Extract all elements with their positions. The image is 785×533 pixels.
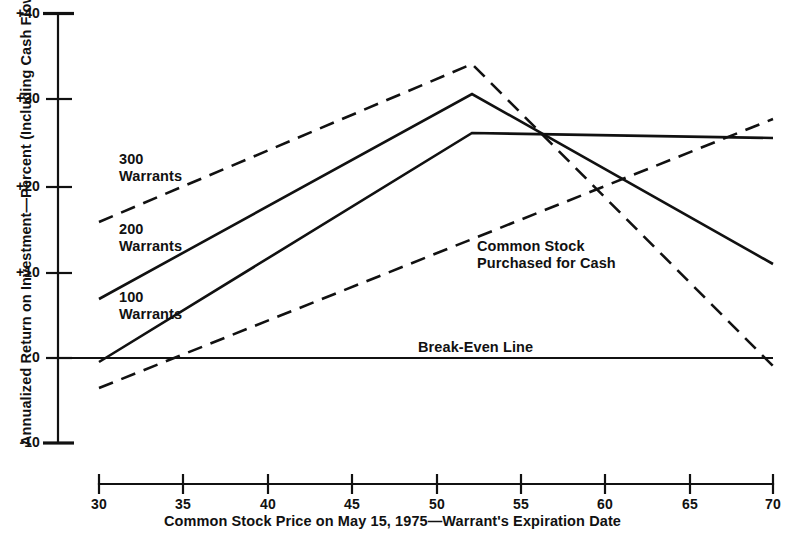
y-axis-title: Annualized Return on Investment—Percent … (18, 0, 35, 446)
y-axis (43, 13, 74, 443)
series-300-warrants (99, 64, 773, 366)
x-tick-label-50: 50 (417, 496, 457, 513)
x-tick-label-35: 35 (163, 496, 203, 513)
series-label-100-warrants: 100 Warrants (119, 289, 182, 323)
x-tick-label-55: 55 (501, 496, 541, 513)
annotation-break-even-line: Break-Even Line (418, 339, 533, 356)
series-100-warrants (99, 133, 773, 362)
series-label-300-warrants: 300 Warrants (119, 151, 182, 185)
x-tick-label-70: 70 (753, 496, 785, 513)
annotation-common-stock-purchased-for-cash: Common Stock Purchased for Cash (477, 238, 616, 272)
x-axis (99, 474, 773, 494)
series-label-200-warrants: 200 Warrants (119, 221, 182, 255)
chart-canvas (0, 0, 785, 533)
x-tick-label-60: 60 (585, 496, 625, 513)
x-tick-label-40: 40 (248, 496, 288, 513)
chart-figure: +40 +30 +20 +10 0 -10 30 35 40 45 50 55 … (0, 0, 785, 533)
x-tick-label-30: 30 (79, 496, 119, 513)
x-tick-label-65: 65 (670, 496, 710, 513)
x-tick-label-45: 45 (332, 496, 372, 513)
series-200-warrants (99, 94, 773, 299)
x-axis-title: Common Stock Price on May 15, 1975—Warra… (0, 513, 785, 530)
